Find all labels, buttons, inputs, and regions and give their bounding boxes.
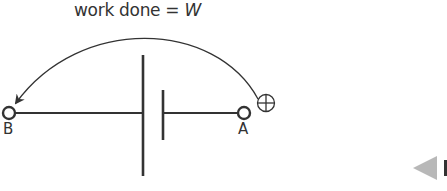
terminal-a-label: A (238, 120, 248, 138)
work-arrow (16, 38, 258, 103)
terminal-a-icon (238, 107, 250, 119)
terminal-b-label: B (3, 120, 13, 138)
triangle-left-icon[interactable] (413, 156, 437, 180)
positive-charge-icon (258, 95, 275, 112)
terminal-b-icon (3, 107, 15, 119)
circuit-diagram (0, 0, 447, 191)
